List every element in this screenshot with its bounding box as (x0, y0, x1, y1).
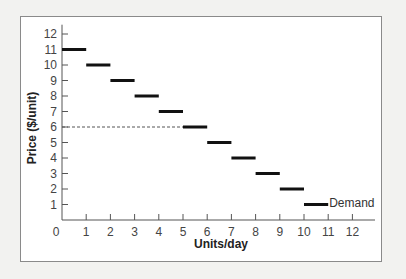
y-tick-label: 6 (50, 120, 57, 134)
y-axis-title: Price ($/unit) (25, 92, 39, 165)
x-tick-label: 5 (180, 225, 187, 239)
x-tick-label: 4 (155, 225, 162, 239)
demand-chart: 0123456789101112 123456789101112 Units/d… (0, 0, 406, 279)
demand-label: Demand (329, 196, 374, 210)
x-tick-label: 2 (107, 225, 114, 239)
x-tick-label: 9 (276, 225, 283, 239)
y-tick-label: 8 (50, 89, 57, 103)
y-tick-label: 2 (50, 182, 57, 196)
y-tick-label: 5 (50, 136, 57, 150)
demand-steps (62, 50, 328, 205)
x-tick-label: 1 (83, 225, 90, 239)
y-tick-label: 10 (44, 58, 58, 72)
y-tick-label: 4 (50, 151, 57, 165)
y-tick-label: 1 (50, 198, 57, 212)
x-tick-label: 8 (252, 225, 259, 239)
y-axis-ticks: 123456789101112 (44, 27, 68, 212)
y-tick-label: 11 (45, 43, 58, 57)
x-axis-title: Units/day (194, 237, 248, 251)
y-tick-label: 12 (44, 27, 58, 41)
x-tick-label: 0 (53, 225, 60, 239)
x-tick-label: 12 (346, 225, 360, 239)
y-tick-label: 7 (50, 105, 57, 119)
y-tick-label: 3 (50, 167, 57, 181)
axes (62, 25, 375, 220)
x-tick-label: 11 (322, 225, 335, 239)
y-tick-label: 9 (50, 74, 57, 88)
x-tick-label: 3 (131, 225, 138, 239)
x-axis-ticks: 0123456789101112 (53, 214, 360, 239)
x-tick-label: 10 (297, 225, 311, 239)
